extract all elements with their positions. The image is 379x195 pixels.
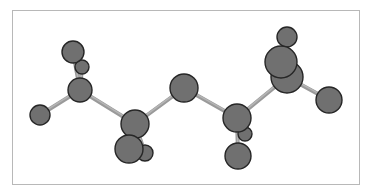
atoms-layer — [30, 27, 342, 169]
atom-h-h-right — [316, 87, 342, 113]
molecule-diagram — [0, 0, 379, 195]
atom-c-c1 — [68, 78, 92, 102]
atom-h-h-top-right — [277, 27, 297, 47]
atom-h-h-c4-front — [265, 46, 297, 78]
atom-h-h-c2-large — [115, 135, 143, 163]
atom-o-o — [170, 74, 198, 102]
atom-h-h-top-left-front — [62, 41, 84, 63]
atom-c-c3 — [223, 104, 251, 132]
atom-h-h-left — [30, 105, 50, 125]
atom-c-c2 — [121, 110, 149, 138]
atom-h-h-c3-bottom — [225, 143, 251, 169]
